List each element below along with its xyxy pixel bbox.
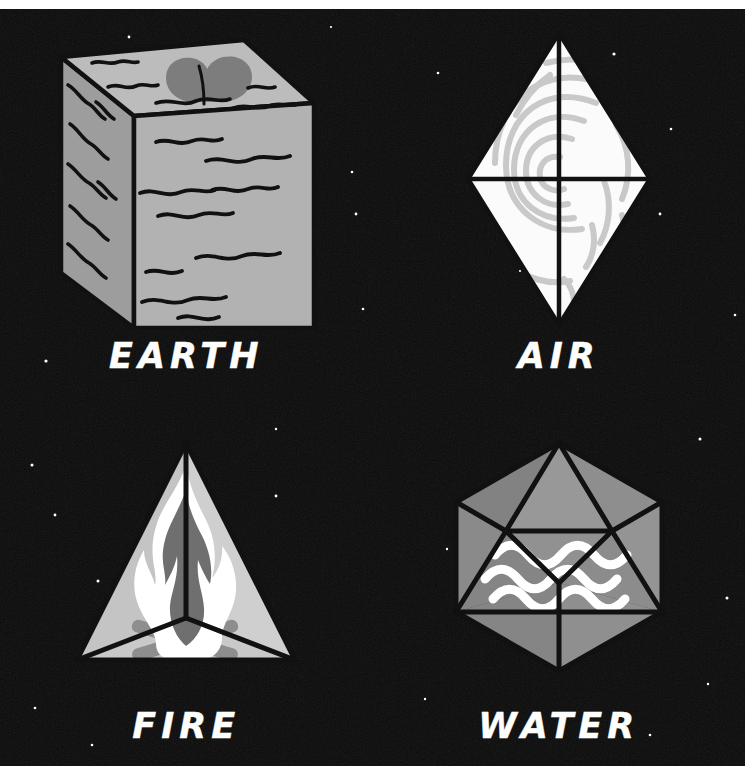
earth-artwork <box>0 9 373 339</box>
fire-artwork <box>0 388 373 710</box>
element-cell-water[interactable]: WATER <box>373 388 746 766</box>
earth-cube-icon <box>52 30 320 330</box>
element-label-air: AIR <box>518 339 600 374</box>
element-label-fire: FIRE <box>132 709 240 744</box>
air-octahedron-icon <box>464 29 654 329</box>
fire-tetrahedron-icon <box>72 438 300 668</box>
elements-poster: EARTH <box>0 0 751 766</box>
air-artwork <box>373 9 746 339</box>
water-icosahedron-icon <box>449 439 669 675</box>
wind-swirl-motif <box>495 59 628 316</box>
element-label-water: WATER <box>478 709 639 744</box>
elements-grid: EARTH <box>0 9 745 766</box>
starfield-background: EARTH <box>0 9 745 766</box>
element-cell-fire[interactable]: FIRE <box>0 388 373 766</box>
element-cell-air[interactable]: AIR <box>373 9 746 388</box>
element-cell-earth[interactable]: EARTH <box>0 9 373 388</box>
water-artwork <box>373 388 746 710</box>
element-label-earth: EARTH <box>109 339 264 374</box>
